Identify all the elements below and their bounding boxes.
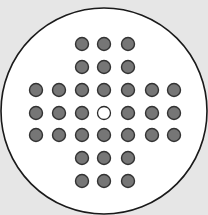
peg[interactable]	[168, 107, 181, 120]
empty-hole[interactable]	[98, 107, 111, 120]
peg[interactable]	[76, 175, 89, 188]
peg[interactable]	[30, 129, 43, 142]
peg[interactable]	[98, 38, 111, 51]
peg[interactable]	[76, 129, 89, 142]
peg-solitaire-board	[0, 0, 208, 215]
peg[interactable]	[122, 152, 135, 165]
peg[interactable]	[30, 107, 43, 120]
peg[interactable]	[146, 129, 159, 142]
peg[interactable]	[98, 84, 111, 97]
peg[interactable]	[76, 107, 89, 120]
peg[interactable]	[53, 107, 66, 120]
peg[interactable]	[168, 129, 181, 142]
peg[interactable]	[122, 175, 135, 188]
peg[interactable]	[98, 61, 111, 74]
peg[interactable]	[122, 38, 135, 51]
peg[interactable]	[98, 129, 111, 142]
peg[interactable]	[98, 175, 111, 188]
peg[interactable]	[98, 152, 111, 165]
peg[interactable]	[122, 107, 135, 120]
peg[interactable]	[122, 61, 135, 74]
peg[interactable]	[76, 152, 89, 165]
peg[interactable]	[76, 61, 89, 74]
peg[interactable]	[53, 129, 66, 142]
peg[interactable]	[168, 84, 181, 97]
peg[interactable]	[122, 84, 135, 97]
peg[interactable]	[76, 84, 89, 97]
peg[interactable]	[146, 84, 159, 97]
peg[interactable]	[146, 107, 159, 120]
peg[interactable]	[76, 38, 89, 51]
peg[interactable]	[53, 84, 66, 97]
peg[interactable]	[30, 84, 43, 97]
peg[interactable]	[122, 129, 135, 142]
